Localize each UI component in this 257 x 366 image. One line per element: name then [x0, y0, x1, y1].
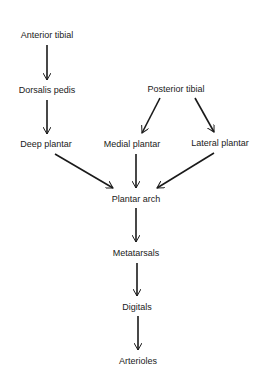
node-digitals: Digitals — [122, 303, 152, 312]
node-metatarsals: Metatarsals — [113, 249, 160, 258]
node-lateral-plantar: Lateral plantar — [191, 139, 249, 148]
node-medial-plantar: Medial plantar — [104, 140, 161, 149]
arrow-posterior-tibial-to-lateral-plantar — [195, 98, 214, 132]
arrow-lateral-plantar-to-plantar-arch — [157, 153, 214, 188]
node-plantar-arch: Plantar arch — [112, 195, 161, 204]
node-dorsalis-pedis: Dorsalis pedis — [19, 86, 76, 95]
arrow-deep-plantar-to-plantar-arch — [55, 154, 113, 188]
node-posterior-tibial: Posterior tibial — [147, 85, 204, 94]
node-deep-plantar: Deep plantar — [20, 140, 72, 149]
node-arterioles: Arterioles — [119, 357, 157, 366]
node-anterior-tibial: Anterior tibial — [21, 31, 74, 40]
arrow-posterior-tibial-to-medial-plantar — [142, 98, 160, 133]
